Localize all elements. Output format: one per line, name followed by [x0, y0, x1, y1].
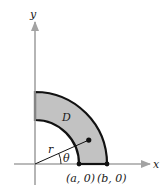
polar-point	[86, 137, 91, 142]
point-a	[77, 162, 82, 167]
theta-arc	[59, 153, 61, 164]
x-axis-label: x	[153, 158, 160, 171]
theta-label: θ	[63, 152, 70, 165]
polar-region-diagram: y x D r θ (a, 0) (b, 0)	[0, 0, 167, 193]
y-axis-label: y	[29, 8, 37, 21]
r-label: r	[48, 143, 54, 156]
point-a-label: (a, 0)	[66, 172, 95, 185]
point-b-label: (b, 0)	[97, 172, 127, 185]
point-b	[105, 162, 110, 167]
region-d	[35, 92, 107, 164]
region-label: D	[61, 111, 71, 124]
